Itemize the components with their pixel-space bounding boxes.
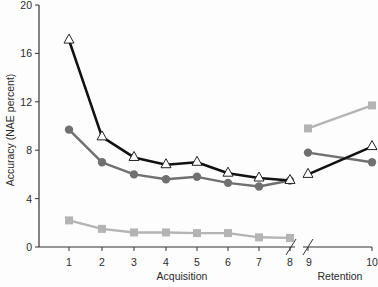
circle-marker: [224, 179, 232, 187]
square-marker: [65, 216, 73, 224]
circle-marker: [368, 158, 376, 166]
triangle-marker: [97, 131, 107, 140]
y-tick-label: 8: [26, 144, 32, 156]
circle-marker: [193, 173, 201, 181]
triangle-marker: [192, 156, 202, 165]
triangle-marker: [367, 141, 377, 150]
x-tick-label: 8: [287, 256, 293, 268]
x-tick-label: 7: [256, 256, 262, 268]
square-marker: [98, 225, 106, 233]
y-tick-label: 0: [26, 241, 32, 253]
x-tick-label: 5: [194, 256, 200, 268]
x-axis-label-retention: Retention: [318, 270, 363, 282]
x-tick-label: 2: [99, 256, 105, 268]
square-marker: [304, 124, 312, 132]
circle-marker: [130, 170, 138, 178]
x-tick-label: 3: [131, 256, 137, 268]
line-chart: 04812162012345678910 Accuracy (NAE perce…: [0, 0, 378, 287]
circle-marker: [255, 182, 263, 190]
circle-marker: [98, 158, 106, 166]
circle-marker: [162, 175, 170, 183]
circle-marker: [304, 148, 312, 156]
x-tick-label: 6: [225, 256, 231, 268]
square-marker: [368, 101, 376, 109]
triangle-marker: [64, 34, 74, 43]
square-marker: [130, 228, 138, 236]
square-marker: [286, 234, 294, 242]
square-marker: [224, 229, 232, 237]
x-tick-label: 10: [366, 256, 378, 268]
y-tick-label: 4: [26, 193, 32, 205]
square-light-gray-retention-line: [308, 105, 372, 128]
x-tick-label: 1: [66, 256, 72, 268]
x-axis-label-acquisition: Acquisition: [157, 270, 208, 282]
y-axis-label: Accuracy (NAE percent): [4, 74, 16, 187]
x-tick-label: 4: [163, 256, 169, 268]
square-marker: [193, 229, 201, 237]
square-marker: [162, 228, 170, 236]
series-group: [64, 34, 377, 242]
y-tick-label: 16: [20, 47, 32, 59]
y-tick-label: 12: [20, 96, 32, 108]
circle-marker: [65, 125, 73, 133]
square-marker: [255, 233, 263, 241]
y-tick-label: 20: [20, 0, 32, 11]
x-tick-label: 9: [306, 256, 312, 268]
